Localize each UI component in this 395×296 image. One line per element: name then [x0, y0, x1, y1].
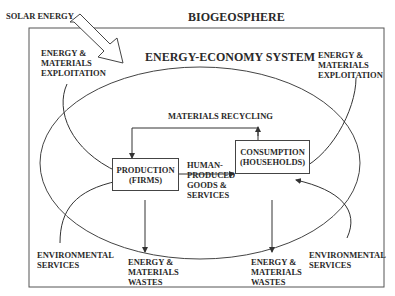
biogeosphere-title: BIOGEOSPHERE: [188, 11, 285, 24]
solar-energy-label: SOLAR ENERGY: [6, 11, 74, 21]
env-services-right-arrow: [296, 180, 351, 238]
exploitation-left-label: ENERGY & MATERIALS EXPLOITATION: [41, 48, 106, 78]
exploitation-right-label: ENERGY & MATERIALS EXPLOITATION: [318, 50, 383, 80]
exploitation-left-arrow: [63, 84, 118, 172]
env-services-right-label: ENVIRONMENTAL SERVICES: [309, 250, 386, 270]
consumption-box: CONSUMPTION (HOUSEHOLDS): [235, 140, 310, 174]
wastes-right-label: ENERGY & MATERIALS WASTES: [251, 257, 302, 287]
env-services-left-label: ENVIRONMENTAL SERVICES: [37, 250, 114, 270]
energy-economy-title: ENERGY-ECONOMY SYSTEM: [145, 51, 315, 64]
materials-recycling-label: MATERIALS RECYCLING: [168, 111, 273, 121]
production-box: PRODUCTION (FIRMS): [112, 158, 179, 191]
consumption-sublabel: (HOUSEHOLDS): [236, 157, 309, 167]
wastes-left-label: ENERGY & MATERIALS WASTES: [128, 257, 179, 287]
consumption-label: CONSUMPTION: [236, 147, 309, 157]
goods-services-label: HUMAN- PRODUCED GOODS & SERVICES: [187, 160, 235, 200]
production-sublabel: (FIRMS): [113, 175, 178, 185]
env-services-left-arrow: [60, 181, 118, 243]
production-label: PRODUCTION: [113, 165, 178, 175]
